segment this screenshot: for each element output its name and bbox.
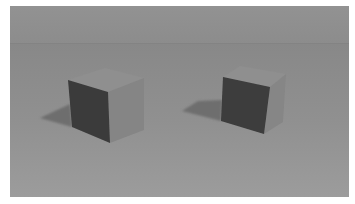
background-wall: [10, 6, 349, 44]
scene-render: [10, 6, 349, 197]
render-frame: Two gray cubes with dark front faces cas…: [10, 6, 349, 197]
